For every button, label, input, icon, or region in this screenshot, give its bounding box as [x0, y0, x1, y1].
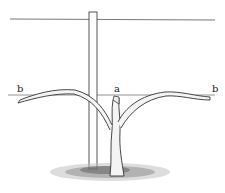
vine-trellis-illustration: b a b: [0, 0, 225, 193]
left-cordon: [18, 90, 112, 130]
top-wire: [10, 19, 215, 20]
label-spur: a: [114, 84, 120, 94]
label-right-arm: b: [212, 84, 218, 94]
right-cordon: [118, 92, 210, 128]
trellis-post: [89, 12, 97, 169]
vine-trunk: [110, 98, 124, 176]
label-left-arm: b: [17, 84, 23, 94]
